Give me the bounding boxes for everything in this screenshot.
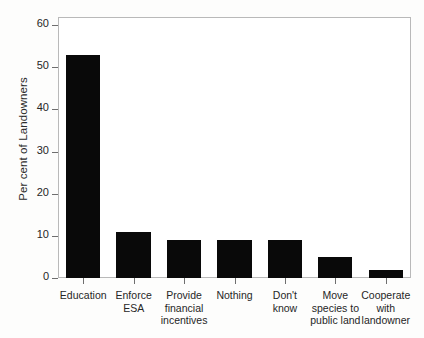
x-axis-tick-label: Don't know xyxy=(260,289,310,314)
x-axis-tick-mark xyxy=(386,278,387,284)
y-axis-tick-label: 40 xyxy=(37,101,49,113)
y-axis-title: Per cent of Landowners xyxy=(12,0,34,278)
x-axis-tick-label: Nothing xyxy=(209,289,259,302)
plot-area xyxy=(58,17,411,278)
x-axis-tick-mark xyxy=(335,278,336,284)
bar xyxy=(318,257,352,278)
bar xyxy=(116,232,150,278)
x-axis-tick-label: Move species to public land xyxy=(310,289,360,327)
bar-chart-figure: Per cent of Landowners 0102030405060 Edu… xyxy=(0,0,424,338)
x-axis-tick-mark xyxy=(235,278,236,284)
bar xyxy=(66,55,100,278)
y-axis-tick-label: 20 xyxy=(37,186,49,198)
y-axis-tick-label: 50 xyxy=(37,59,49,71)
x-axis-tick-label: Education xyxy=(58,289,108,302)
x-axis-tick-mark xyxy=(83,278,84,284)
x-axis-tick-label: Enforce ESA xyxy=(108,289,158,314)
x-axis-tick-mark xyxy=(285,278,286,284)
bar xyxy=(268,240,302,278)
y-axis-tick-label: 0 xyxy=(43,270,49,282)
x-axis-tick-mark xyxy=(134,278,135,284)
y-axis-tick-label: 10 xyxy=(37,228,49,240)
y-axis-tick-label: 60 xyxy=(37,17,49,29)
bar xyxy=(369,270,403,278)
bar xyxy=(167,240,201,278)
y-axis-tick-label: 30 xyxy=(37,144,49,156)
x-axis-tick-mark xyxy=(184,278,185,284)
x-axis-tick-label: Cooperate with landowner xyxy=(361,289,411,327)
y-axis-tick-mark xyxy=(52,278,58,279)
x-axis-tick-label: Provide financial incentives xyxy=(159,289,209,327)
bar xyxy=(217,240,251,278)
